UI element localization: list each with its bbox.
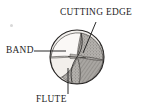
land-upper-left <box>51 33 81 57</box>
callout-label-band: BAND <box>6 46 34 55</box>
scan-speck-artifact <box>10 24 13 27</box>
callout-label-cutting-edge: CUTTING EDGE <box>60 8 132 17</box>
drill-point-diagram: CUTTING EDGE BAND FLUTE <box>0 0 150 112</box>
callout-label-flute: FLUTE <box>36 95 67 104</box>
flute-face-lower-right <box>77 57 103 84</box>
